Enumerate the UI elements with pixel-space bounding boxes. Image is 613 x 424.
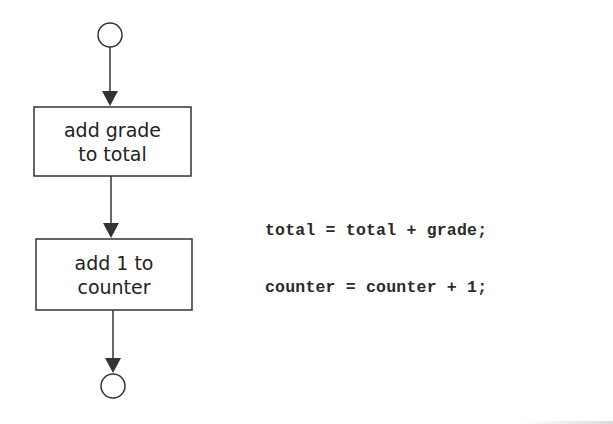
arrowhead-icon — [102, 91, 118, 106]
code-line-counter: counter = counter + 1; — [265, 278, 487, 297]
final-state-circle — [101, 374, 125, 398]
initial-state-circle — [98, 23, 122, 47]
action-label-line1: add 1 to — [74, 251, 153, 275]
action-label-line2: to total — [78, 142, 147, 166]
action-label-line1: add grade — [64, 118, 161, 142]
code-line-total: total = total + grade; — [265, 221, 487, 240]
arrowhead-icon — [105, 358, 121, 373]
action-label-line2: counter — [77, 275, 150, 299]
code-snippet: total = total + grade; counter = counter… — [265, 183, 487, 316]
action-label-add-counter: add 1 to counter — [36, 239, 192, 310]
action-label-add-grade: add grade to total — [34, 107, 191, 176]
arrowhead-icon — [103, 223, 119, 238]
